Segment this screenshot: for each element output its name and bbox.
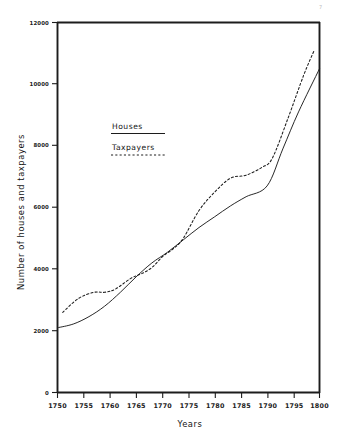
y-tick-labels: 0 2000 4000 6000 8000 10000 12000 (29, 20, 49, 396)
legend-label-houses: Houses (112, 122, 143, 131)
x-tick-label-1750: 1750 (48, 402, 67, 410)
series-line-houses (58, 69, 320, 328)
page-corner-mark: 7 (319, 4, 322, 10)
y-tick-label-10000: 10000 (29, 81, 49, 87)
legend: Houses Taxpayers (111, 122, 165, 155)
x-tick-label-1785: 1785 (232, 402, 251, 410)
x-tick-label-1770: 1770 (153, 402, 172, 410)
x-tick-label-1795: 1795 (285, 402, 304, 410)
x-tick-label-1790: 1790 (259, 402, 278, 410)
line-chart: 7 0 2000 4000 6000 8000 10000 12000 (0, 0, 346, 441)
x-tick-label-1775: 1775 (180, 402, 199, 410)
x-tick-labels: 1750 1755 1760 1765 1770 1775 1780 1785 … (48, 402, 329, 410)
y-tick-label-2000: 2000 (33, 328, 49, 334)
x-tick-label-1760: 1760 (101, 402, 120, 410)
y-tick-label-8000: 8000 (33, 142, 49, 148)
legend-label-taxpayers: Taxpayers (111, 143, 155, 152)
series-line-taxpayers (63, 50, 315, 312)
figure-container: 7 0 2000 4000 6000 8000 10000 12000 (0, 0, 346, 441)
x-axis-title: Years (177, 419, 203, 429)
x-tick-label-1765: 1765 (127, 402, 146, 410)
y-tick-label-6000: 6000 (33, 204, 49, 210)
y-tick-label-4000: 4000 (33, 266, 49, 272)
x-axis-ticks (58, 393, 320, 398)
x-tick-label-1780: 1780 (206, 402, 225, 410)
y-axis-title: Number of houses and taxpayers (16, 134, 26, 290)
y-axis-ticks (52, 23, 57, 393)
x-tick-label-1755: 1755 (75, 402, 94, 410)
y-tick-label-12000: 12000 (29, 20, 49, 26)
series-group (58, 50, 320, 328)
x-tick-label-1800: 1800 (310, 402, 329, 410)
y-tick-label-0: 0 (45, 390, 49, 396)
plot-frame (57, 22, 320, 393)
